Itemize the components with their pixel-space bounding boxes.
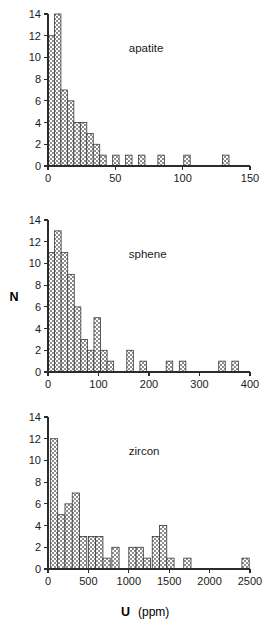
y-tick-label: 2 [35,138,41,150]
histogram-bar [223,155,229,166]
histogram-bar [143,558,150,569]
histogram-bar [103,558,110,569]
y-tick-label: 12 [29,30,41,42]
histogram-bar [93,144,99,166]
y-tick-label: 10 [29,257,41,269]
y-tick-label: 0 [35,366,41,378]
histogram-bar [61,90,67,166]
histogram-bar [129,547,136,569]
histogram-bar [100,155,106,166]
histogram-bar [80,123,86,166]
histogram-bar [65,504,72,569]
histogram-bar [74,123,80,166]
histogram-bar [61,253,68,372]
histogram-bar [68,274,75,372]
x-tick-label: 50 [109,172,121,184]
y-tick-label: 4 [35,323,41,335]
x-tick-label: 100 [173,172,191,184]
histogram-bar [158,155,164,166]
histogram-bar [127,350,134,372]
histogram-bar [80,536,87,569]
histogram-bar [113,155,119,166]
histogram-bar [87,133,93,166]
histogram-bar [136,547,143,569]
histogram-bar [81,339,88,372]
histogram-bar [72,493,79,569]
y-tick-label: 10 [29,454,41,466]
histogram-bar [126,155,132,166]
histogram-bar [107,361,114,372]
histogram-bar [55,231,62,372]
histogram-bar [219,361,226,372]
histogram-bar [58,515,65,569]
x-tick-label: 100 [89,378,107,390]
histogram-bar [87,350,94,372]
y-tick-label: 6 [35,498,41,510]
histogram-bar [48,36,54,166]
y-tick-label: 14 [29,8,41,20]
y-tick-label: 4 [35,117,41,129]
x-tick-label: 0 [45,378,51,390]
histogram-bar [166,361,173,372]
y-tick-label: 12 [29,236,41,248]
histogram-bar [50,439,57,569]
histogram-bar [67,101,73,166]
x-axis-title-symbol: U [121,605,130,619]
histogram-bar [54,14,60,166]
histogram-bar [232,361,239,372]
x-axis-title-units: (ppm) [138,605,169,619]
histogram-bar [101,350,108,372]
x-tick-label: 0 [45,575,51,587]
histogram-bar [139,155,145,166]
histogram-bar [96,536,103,569]
x-tick-label: 2000 [197,575,221,587]
y-tick-label: 0 [35,563,41,575]
y-tick-label: 6 [35,95,41,107]
x-tick-label: 200 [140,378,158,390]
histogram-bar [140,361,147,372]
histogram-bar [74,307,81,372]
x-tick-label: 500 [79,575,97,587]
histogram-bar [184,558,191,569]
y-tick-label: 4 [35,520,41,532]
y-tick-label: 2 [35,541,41,553]
y-tick-label: 8 [35,476,41,488]
y-tick-label: 8 [35,73,41,85]
figure-canvas: 05010015002468101214apatite0100200300400… [0,0,266,625]
x-tick-label: 150 [241,172,259,184]
y-tick-label: 12 [29,433,41,445]
histogram-figure: 05010015002468101214apatite0100200300400… [0,0,266,625]
histogram-bar [167,558,174,569]
histogram-bar [88,536,95,569]
panel-title-zircon: zircon [129,445,160,457]
x-tick-label: 400 [241,378,259,390]
x-tick-label: 2500 [238,575,262,587]
y-axis-title: N [9,290,18,304]
histogram-bar [48,253,55,372]
x-tick-label: 1000 [117,575,141,587]
x-tick-label: 1500 [157,575,181,587]
y-tick-label: 2 [35,344,41,356]
panel-title-apatite: apatite [129,42,164,54]
histogram-bar [184,155,190,166]
x-tick-label: 0 [45,172,51,184]
y-tick-label: 14 [29,214,41,226]
y-tick-label: 10 [29,51,41,63]
y-tick-label: 6 [35,301,41,313]
histogram-bar [152,536,159,569]
panel-title-sphene: sphene [129,248,167,260]
histogram-bar [242,558,249,569]
y-tick-label: 8 [35,279,41,291]
histogram-bar [179,361,186,372]
x-tick-label: 300 [190,378,208,390]
histogram-bar [160,526,167,569]
y-tick-label: 0 [35,160,41,172]
histogram-bar [112,547,119,569]
histogram-bar [94,318,101,372]
y-tick-label: 14 [29,411,41,423]
